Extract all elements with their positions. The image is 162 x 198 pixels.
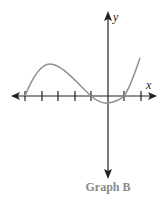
- graph: y x: [0, 0, 162, 198]
- x-axis-label: x: [145, 78, 152, 92]
- y-axis-label: y: [112, 10, 119, 24]
- graph-caption: Graph B: [58, 180, 158, 195]
